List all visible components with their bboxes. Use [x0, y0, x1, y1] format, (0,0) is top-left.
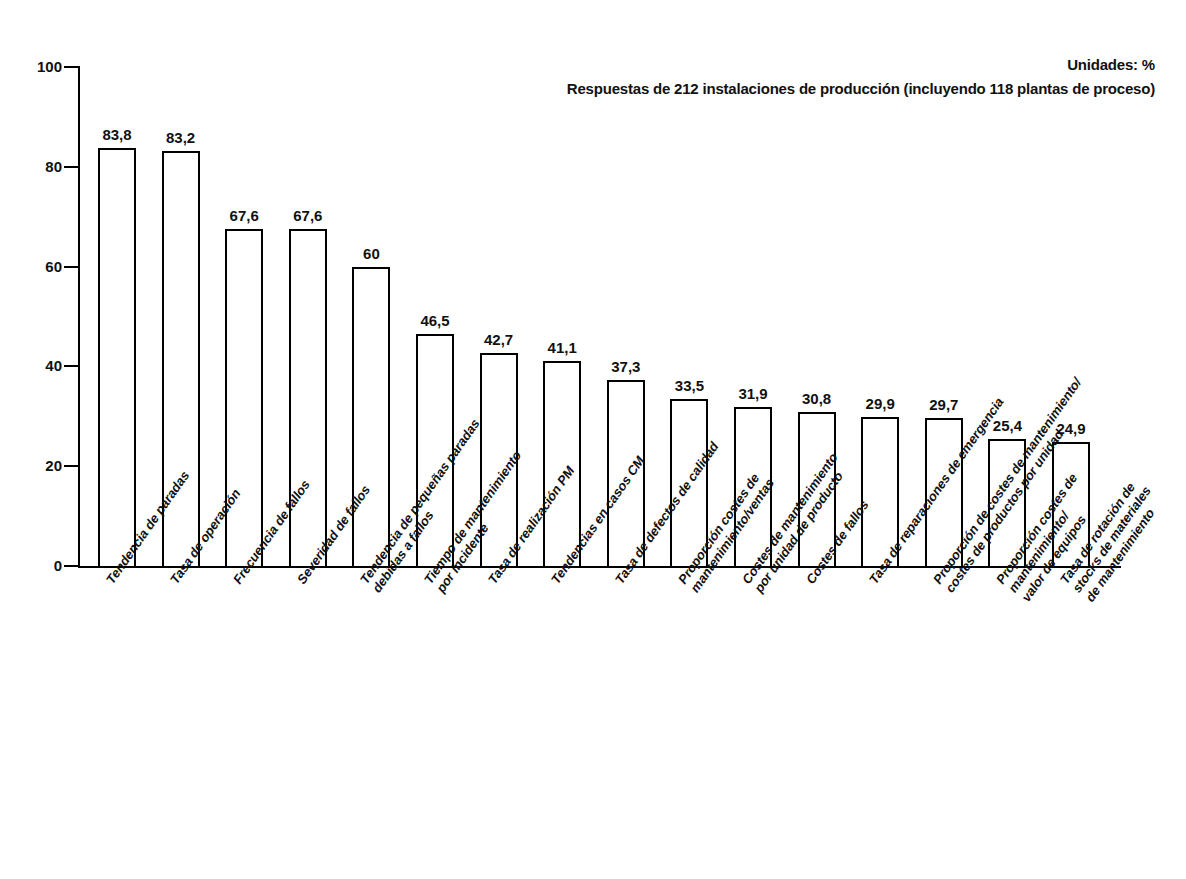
y-tick-label-100: 100	[37, 58, 62, 75]
y-tick-label-0: 0	[54, 557, 62, 574]
bar-value-label: 31,9	[738, 385, 767, 402]
y-tick-20	[64, 465, 80, 467]
bar-value-label: 41,1	[548, 339, 577, 356]
bar-chart-plot: 020406080100 83,883,267,667,66046,542,74…	[0, 0, 1186, 879]
y-tick-label-60: 60	[45, 258, 62, 275]
bar-value-label: 60	[363, 245, 380, 262]
bar-value-label: 67,6	[293, 207, 322, 224]
bar-value-label: 67,6	[230, 207, 259, 224]
bar-value-label: 37,3	[611, 358, 640, 375]
y-tick-40	[64, 365, 80, 367]
bar[interactable]	[225, 229, 263, 568]
y-axis-line	[78, 67, 80, 568]
y-tick-0	[64, 565, 80, 567]
bar[interactable]	[98, 148, 136, 568]
bar-value-label: 42,7	[484, 331, 513, 348]
y-tick-label-40: 40	[45, 357, 62, 374]
bar[interactable]	[352, 267, 390, 568]
bar-value-label: 83,2	[166, 129, 195, 146]
y-tick-label-20: 20	[45, 457, 62, 474]
y-tick-100	[64, 66, 80, 68]
y-tick-60	[64, 266, 80, 268]
bar-value-label: 33,5	[675, 377, 704, 394]
bar[interactable]	[289, 229, 327, 568]
chart-page: Unidades: % Respuestas de 212 instalacio…	[0, 0, 1186, 879]
bar-value-label: 83,8	[102, 126, 131, 143]
bar-value-label: 46,5	[420, 312, 449, 329]
bar-value-label: 30,8	[802, 390, 831, 407]
bar-value-label: 29,7	[929, 396, 958, 413]
y-tick-80	[64, 166, 80, 168]
bar-value-label: 29,9	[866, 395, 895, 412]
bar-value-label: 25,4	[993, 417, 1022, 434]
y-tick-label-80: 80	[45, 158, 62, 175]
